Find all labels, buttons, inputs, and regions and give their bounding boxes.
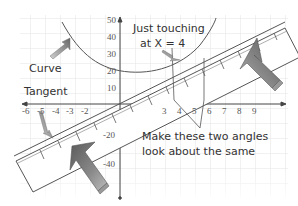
y-tick-label: -40: [103, 159, 115, 169]
x-tick-label: 7: [222, 106, 227, 116]
x-tick-label: -6: [22, 106, 30, 116]
x-tick-label: -2: [81, 106, 89, 116]
x-tick-label: -3: [66, 106, 74, 116]
just-touching-label-line2: at X = 4: [140, 37, 185, 50]
y-tick-label: 40: [107, 32, 116, 42]
x-tick-label: 5: [192, 106, 197, 116]
y-tick-label: 10: [107, 83, 116, 93]
just-touching-label-line1: Just touching: [133, 22, 205, 35]
y-axis-end-dot: [119, 197, 122, 200]
tangent-diagram: 50 40 30 20 10 -20 -40 -6 -5 -4 -3 -2 3 …: [0, 0, 298, 206]
tangent-label: Tangent: [24, 85, 68, 98]
y-tick-label: -20: [103, 130, 115, 140]
x-tick-label: -5: [37, 106, 45, 116]
angles-label-line1: Make these two angles: [142, 130, 268, 143]
angles-label-line2: look about the same: [142, 145, 255, 158]
x-tick-label: 6: [207, 106, 212, 116]
x-tick-label: 8: [237, 106, 242, 116]
x-tick-label: -4: [52, 106, 60, 116]
x-tick-label: 4: [177, 106, 182, 116]
curve-label: Curve: [29, 62, 61, 75]
y-tick-label: 30: [107, 49, 116, 59]
y-tick-label: 50: [107, 15, 116, 25]
y-tick-label: 20: [107, 66, 116, 76]
x-tick-label: 3: [162, 106, 167, 116]
x-tick-label: 9: [252, 106, 257, 116]
